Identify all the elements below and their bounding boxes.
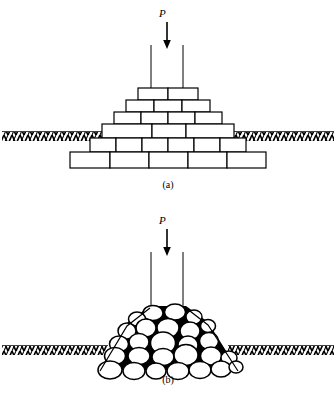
- brick-course-2: [114, 112, 222, 124]
- brick-course-5-footing: [70, 152, 266, 168]
- particle: [165, 304, 186, 320]
- figure-canvas: P: [0, 0, 336, 396]
- panel-b-drawing: [0, 198, 336, 396]
- brick-course-0: [138, 88, 198, 100]
- load-column-lines-b: [151, 252, 183, 310]
- load-label-p-a: P: [159, 8, 166, 19]
- brick-course-1: [126, 100, 210, 112]
- load-column-lines-a: [151, 45, 183, 88]
- particle-pile: [98, 304, 243, 380]
- panel-a-drawing: [0, 0, 336, 198]
- ground-line-right-b: [228, 346, 334, 355]
- panel-b-granular-pile: P: [0, 198, 336, 396]
- panel-caption-b: (b): [0, 375, 336, 385]
- panel-a-brick-pyramid: P: [0, 0, 336, 198]
- brick-course-3: [102, 124, 234, 138]
- brick-course-4: [90, 138, 246, 152]
- panel-caption-a: (a): [0, 180, 336, 190]
- load-arrow-b: [163, 229, 171, 256]
- particle: [128, 348, 150, 365]
- ground-line-left-b: [2, 346, 108, 355]
- load-label-p-b: P: [159, 215, 166, 226]
- load-arrow-a: [163, 22, 171, 49]
